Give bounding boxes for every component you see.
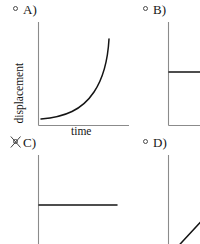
curve-a: [41, 39, 109, 119]
option-b[interactable]: B) acceleration: [130, 0, 200, 122]
choice-label-c[interactable]: C): [12, 136, 36, 149]
option-letter-a: A): [23, 3, 37, 16]
option-c[interactable]: C) displacement: [0, 133, 100, 244]
choice-label-b[interactable]: B): [142, 3, 166, 16]
option-a[interactable]: A) displacement time: [0, 0, 100, 122]
choice-label-a[interactable]: A): [12, 3, 37, 16]
curve-d: [170, 201, 200, 244]
graph-d: [150, 155, 200, 244]
radio-selected-x-icon[interactable]: [12, 138, 21, 147]
radio-unselected-icon[interactable]: [142, 138, 151, 147]
y-axis-label-a: displacement: [14, 63, 26, 124]
graph-b: [150, 22, 200, 128]
question-options-sheet: A) displacement time B): [0, 0, 200, 244]
option-d[interactable]: D) acceleration: [130, 133, 200, 244]
option-letter-d: D): [153, 136, 167, 149]
graph-c: [20, 155, 130, 244]
radio-unselected-icon[interactable]: [142, 5, 151, 14]
choice-label-d[interactable]: D): [142, 136, 167, 149]
graph-a: [20, 22, 130, 128]
option-letter-c: C): [23, 136, 36, 149]
radio-unselected-icon[interactable]: [12, 5, 21, 14]
option-letter-b: B): [153, 3, 166, 16]
